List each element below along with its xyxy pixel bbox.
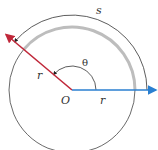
angle-theta-arc [54, 66, 96, 90]
radian-diagram: s θ r r O [0, 0, 158, 150]
diagram-canvas: s θ r r O [0, 0, 158, 150]
radius-label-blue: r [100, 94, 106, 107]
origin-label: O [61, 94, 70, 107]
angle-label-theta: θ [82, 57, 88, 68]
radius-label-red: r [37, 69, 43, 82]
arc-label-s: s [96, 4, 102, 17]
